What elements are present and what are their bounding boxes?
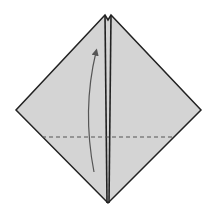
origami-diagram: [0, 0, 219, 218]
